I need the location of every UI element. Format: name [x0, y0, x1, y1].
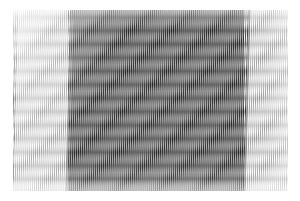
horizontal-moire-fringes [13, 10, 288, 191]
image-canvas [0, 0, 300, 201]
moire-pattern-region [13, 10, 288, 191]
